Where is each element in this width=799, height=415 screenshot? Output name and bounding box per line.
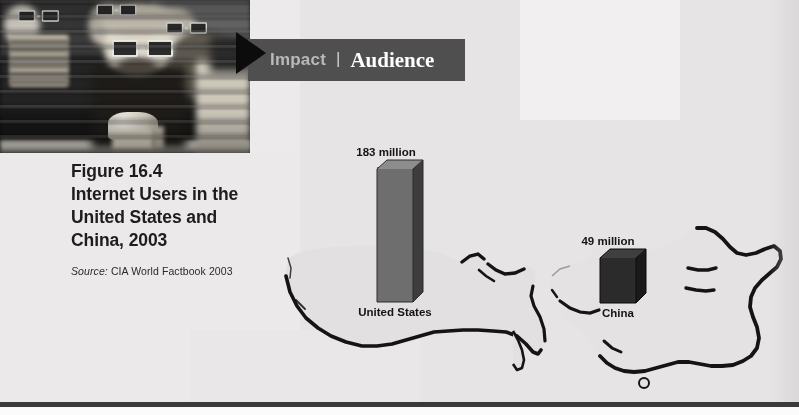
bar-value-united-states: 183 million xyxy=(326,146,446,158)
bar-side-face xyxy=(413,160,423,302)
play-triangle-icon xyxy=(236,32,266,74)
bar-united-states xyxy=(377,160,413,300)
bar-front-face-shape xyxy=(377,169,413,302)
figure-page: Impact | Audience Figure 16.4 Internet U… xyxy=(0,0,799,415)
chart-stage: 183 million United States 49 million xyxy=(0,0,799,415)
bar-front-face-shape xyxy=(600,258,636,303)
bar-value-china: 49 million xyxy=(548,235,668,247)
bar-label-united-states: United States xyxy=(335,306,455,318)
page-bottom-margin xyxy=(0,407,799,415)
bar-3d-faces xyxy=(377,160,425,302)
bar-3d-faces-china xyxy=(600,249,648,303)
bar-label-china: China xyxy=(558,307,678,319)
bar-china xyxy=(600,249,636,301)
page-edge-shadow xyxy=(769,0,799,402)
